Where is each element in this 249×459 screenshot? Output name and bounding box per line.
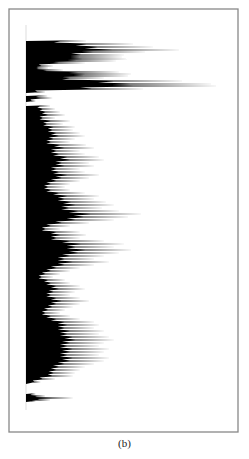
spike-segment-middle-block	[26, 105, 144, 384]
spike-segment-bottom-spike	[26, 393, 74, 402]
figure-caption: (b)	[0, 437, 249, 449]
spike-segment-top-block	[26, 40, 221, 93]
spike-segment-isolated-spike	[26, 95, 53, 102]
spike-profile	[26, 40, 221, 402]
figure-plot	[0, 0, 249, 459]
